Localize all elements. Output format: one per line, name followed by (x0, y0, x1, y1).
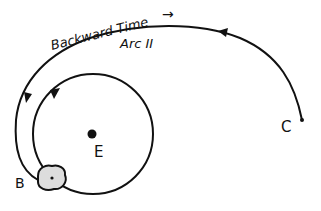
arc-arrowhead-left (24, 92, 32, 103)
label-c: C (281, 118, 291, 136)
label-arc-ii: Arc II (119, 36, 153, 51)
earth-dot (88, 130, 97, 139)
label-earth: E (94, 143, 103, 161)
backward-time-arrow: → (162, 6, 174, 22)
point-c-dot (300, 118, 304, 122)
label-b: B (15, 175, 25, 191)
point-b-dot (50, 176, 53, 179)
trajectory-diagram: Backward Time → Arc II E B C (0, 0, 321, 211)
